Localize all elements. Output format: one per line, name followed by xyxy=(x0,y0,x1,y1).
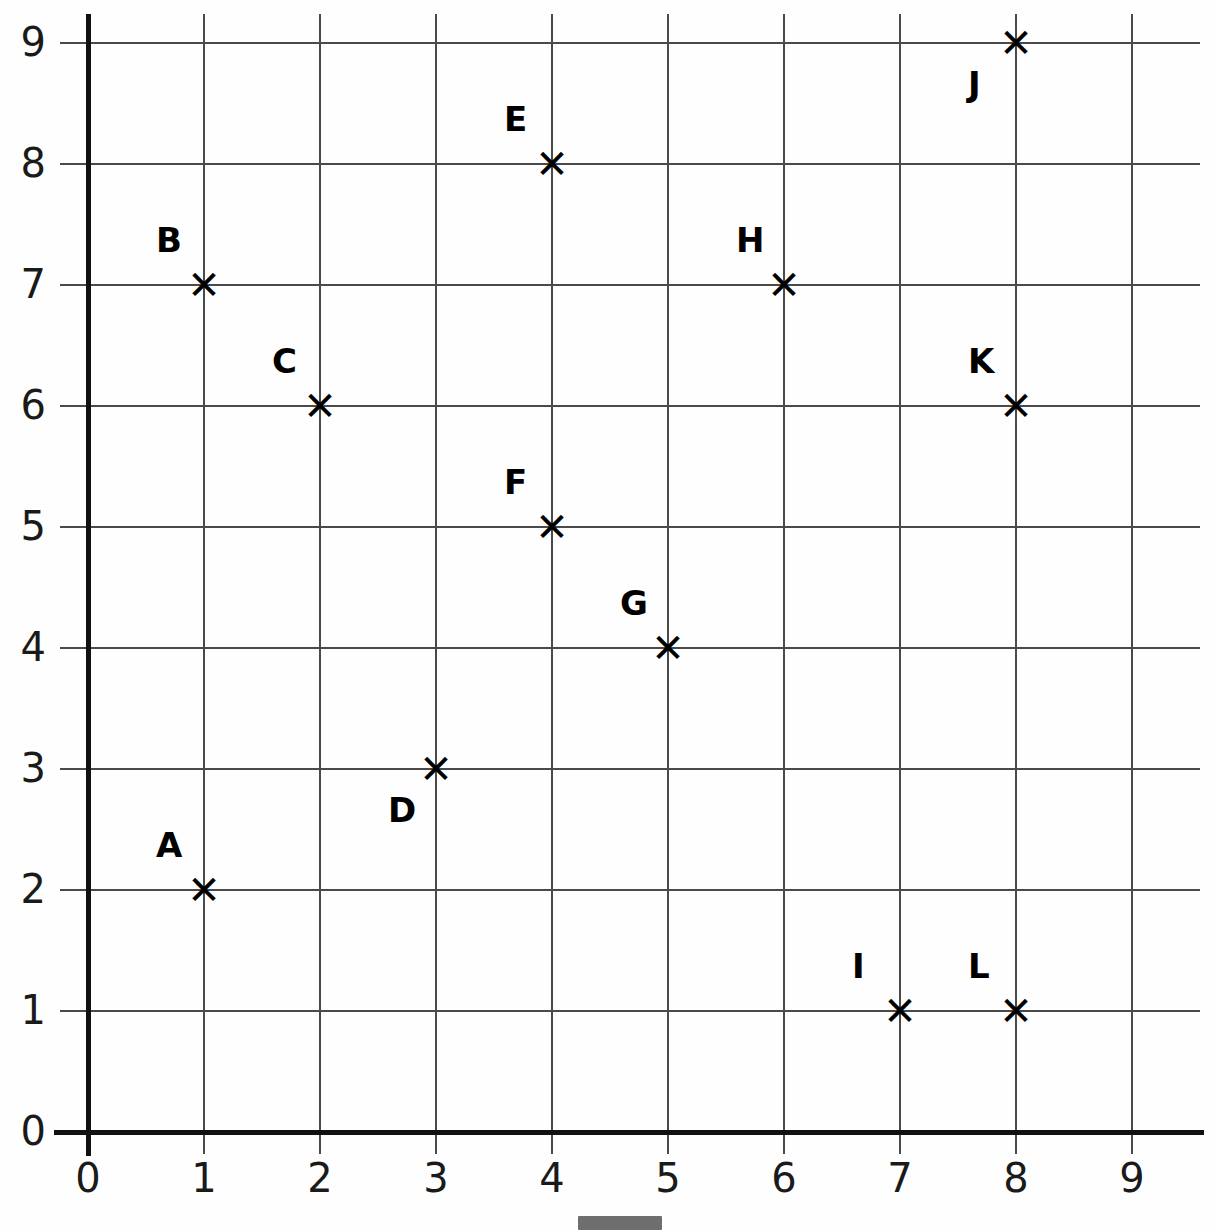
point-label-c: C xyxy=(272,344,297,378)
cross-marker-icon: ✕ xyxy=(533,145,571,183)
y-tick-label-9: 9 xyxy=(0,22,46,62)
gridline-vertical-x9 xyxy=(1131,14,1133,1154)
gridline-horizontal-y3 xyxy=(60,768,1200,770)
gridline-vertical-x7 xyxy=(899,14,901,1154)
x-tick-label-2: 2 xyxy=(297,1158,343,1198)
gridline-horizontal-y2 xyxy=(60,889,1200,891)
x-tick-label-8: 8 xyxy=(993,1158,1039,1198)
cross-marker-icon: ✕ xyxy=(301,387,339,425)
x-tick-label-0: 0 xyxy=(65,1158,111,1198)
cross-marker-icon: ✕ xyxy=(533,508,571,546)
x-tick-label-7: 7 xyxy=(877,1158,923,1198)
y-tick-label-2: 2 xyxy=(0,869,46,909)
y-tick-label-5: 5 xyxy=(0,506,46,546)
x-tick-label-4: 4 xyxy=(529,1158,575,1198)
cross-marker-icon: ✕ xyxy=(649,629,687,667)
scan-artifact-smudge xyxy=(578,1216,662,1230)
y-tick-label-6: 6 xyxy=(0,385,46,425)
point-label-b: B xyxy=(156,223,182,257)
x-axis-line xyxy=(54,1130,1204,1135)
y-tick-label-7: 7 xyxy=(0,264,46,304)
y-tick-label-0: 0 xyxy=(0,1111,46,1151)
point-label-j: J xyxy=(968,67,981,101)
point-label-i: I xyxy=(852,949,865,983)
cross-marker-icon: ✕ xyxy=(185,871,223,909)
cross-marker-icon: ✕ xyxy=(185,266,223,304)
cross-marker-icon: ✕ xyxy=(765,266,803,304)
cross-marker-icon: ✕ xyxy=(997,387,1035,425)
gridline-vertical-x8 xyxy=(1015,14,1017,1154)
point-label-f: F xyxy=(504,465,527,499)
gridline-horizontal-y4 xyxy=(60,647,1200,649)
y-tick-label-1: 1 xyxy=(0,990,46,1030)
point-label-h: H xyxy=(736,223,764,257)
gridline-vertical-x2 xyxy=(319,14,321,1154)
y-tick-label-4: 4 xyxy=(0,627,46,667)
x-tick-label-3: 3 xyxy=(413,1158,459,1198)
x-tick-label-9: 9 xyxy=(1109,1158,1155,1198)
y-axis-line xyxy=(86,14,91,1156)
gridline-horizontal-y5 xyxy=(60,526,1200,528)
x-tick-label-5: 5 xyxy=(645,1158,691,1198)
gridline-vertical-x5 xyxy=(667,14,669,1154)
point-label-l: L xyxy=(968,949,990,983)
cross-marker-icon: ✕ xyxy=(417,750,455,788)
y-tick-label-8: 8 xyxy=(0,143,46,183)
point-label-a: A xyxy=(156,828,182,862)
gridline-vertical-x6 xyxy=(783,14,785,1154)
coordinate-grid-worksheet: 0123456789 0123456789 ✕A✕B✕C✕D✕E✕F✕G✕H✕I… xyxy=(0,0,1214,1232)
point-label-k: K xyxy=(968,344,994,378)
cross-marker-icon: ✕ xyxy=(881,992,919,1030)
y-tick-label-3: 3 xyxy=(0,748,46,788)
gridline-horizontal-y7 xyxy=(60,284,1200,286)
x-tick-label-6: 6 xyxy=(761,1158,807,1198)
cross-marker-icon: ✕ xyxy=(997,992,1035,1030)
gridline-vertical-x3 xyxy=(435,14,437,1154)
x-tick-label-1: 1 xyxy=(181,1158,227,1198)
gridline-horizontal-y8 xyxy=(60,163,1200,165)
point-label-d: D xyxy=(388,793,416,827)
cross-marker-icon: ✕ xyxy=(997,24,1035,62)
gridline-vertical-x1 xyxy=(203,14,205,1154)
point-label-e: E xyxy=(504,102,527,136)
point-label-g: G xyxy=(620,586,648,620)
